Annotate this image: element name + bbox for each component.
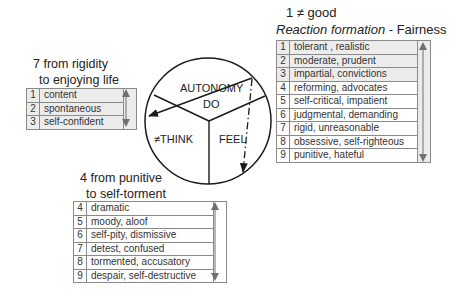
- row-number: 1: [277, 41, 290, 55]
- think-label: ≠THINK: [154, 133, 194, 145]
- row-text: obsessive, self-righteous: [290, 135, 418, 149]
- bottom-heading-line1: 4 from punitive: [80, 171, 162, 185]
- row-text: self-critical, impatient: [290, 95, 418, 109]
- table-row: 7 detest, confused: [74, 242, 227, 256]
- reaction-formation-label: Reaction formation: [276, 22, 385, 37]
- row-number: 8: [277, 135, 290, 149]
- table-row: 4 reforming, advocates: [277, 81, 431, 95]
- arrow-to-7: [149, 78, 252, 116]
- row-text: punitive, hateful: [290, 149, 418, 163]
- table-row: 1 tolerant , realistic: [277, 41, 431, 55]
- table-row: 9 despair, self-destructive: [74, 269, 227, 283]
- bottom-heading-line2: to self-torment: [86, 187, 166, 201]
- do-label: DO: [203, 98, 220, 110]
- row-number: 3: [277, 68, 290, 82]
- row-text: dramatic: [87, 202, 214, 216]
- row-text: self-pity, dismissive: [87, 229, 214, 243]
- row-text: rigid, unreasonable: [290, 122, 418, 136]
- row-number: 7: [74, 242, 87, 256]
- row-number: 5: [74, 215, 87, 229]
- table-row: 8 obsessive, self-righteous: [277, 135, 431, 149]
- divider-left: [154, 95, 209, 121]
- row-text: spontaneous: [40, 102, 124, 116]
- row-text: content: [40, 89, 124, 103]
- table-row: 5 moody, aloof: [74, 215, 227, 229]
- table-row: 6 self-pity, dismissive: [74, 229, 227, 243]
- bottom-table: 4 dramatic 5 moody, aloof 6 self-pity, d…: [73, 201, 227, 283]
- table-row: 3 impartial, convictions: [277, 68, 431, 82]
- row-number: 3: [27, 116, 40, 130]
- row-number: 9: [74, 269, 87, 283]
- top-right-table: 1 tolerant , realistic 2 moderate, prude…: [276, 40, 431, 163]
- table-row: 3 self-confident: [27, 116, 137, 130]
- row-number: 4: [74, 202, 87, 216]
- row-number: 7: [277, 122, 290, 136]
- row-number: 6: [277, 108, 290, 122]
- divider-right: [209, 96, 265, 121]
- left-heading-line1: 7 from rigidity: [33, 57, 108, 71]
- scroll-arrow-column: [124, 89, 137, 130]
- table-row: 2 moderate, prudent: [277, 54, 431, 68]
- row-text: reforming, advocates: [290, 81, 418, 95]
- top-right-heading-line1: 1 ≠ good: [286, 6, 337, 20]
- fairness-label: - Fairness: [385, 22, 446, 37]
- row-number: 9: [277, 149, 290, 163]
- row-text: tormented, accusatory: [87, 256, 214, 270]
- row-number: 1: [27, 89, 40, 103]
- row-text: tolerant , realistic: [290, 41, 418, 55]
- table-row: 4 dramatic: [74, 202, 227, 216]
- row-text: self-confident: [40, 116, 124, 130]
- feel-label: FEEL: [219, 133, 247, 145]
- table-row: 6 judgmental, demanding: [277, 108, 431, 122]
- table-row: 1 content: [27, 89, 137, 103]
- row-number: 5: [277, 95, 290, 109]
- row-number: 4: [277, 81, 290, 95]
- row-text: despair, self-destructive: [87, 269, 214, 283]
- row-number: 6: [74, 229, 87, 243]
- row-text: moderate, prudent: [290, 54, 418, 68]
- table-row: 2 spontaneous: [27, 102, 137, 116]
- table-row: 5 self-critical, impatient: [277, 95, 431, 109]
- autonomy-label: AUTONOMY: [180, 82, 244, 94]
- scroll-arrow-column: [418, 41, 431, 163]
- table-row: 8 tormented, accusatory: [74, 256, 227, 270]
- row-text: impartial, convictions: [290, 68, 418, 82]
- table-row: 7 rigid, unreasonable: [277, 122, 431, 136]
- row-number: 2: [277, 54, 290, 68]
- scroll-arrow-column: [214, 202, 227, 283]
- arrow-to-4: [243, 79, 252, 172]
- row-number: 2: [27, 102, 40, 116]
- row-number: 8: [74, 256, 87, 270]
- left-heading-line2: to enjoying life: [39, 73, 119, 87]
- row-text: detest, confused: [87, 242, 214, 256]
- center-circle: [145, 58, 271, 184]
- top-right-heading-line2: Reaction formation - Fairness: [276, 23, 447, 37]
- table-row: 9 punitive, hateful: [277, 149, 431, 163]
- left-table: 1 content 2 spontaneous 3 self-confident: [26, 88, 137, 130]
- row-text: judgmental, demanding: [290, 108, 418, 122]
- row-text: moody, aloof: [87, 215, 214, 229]
